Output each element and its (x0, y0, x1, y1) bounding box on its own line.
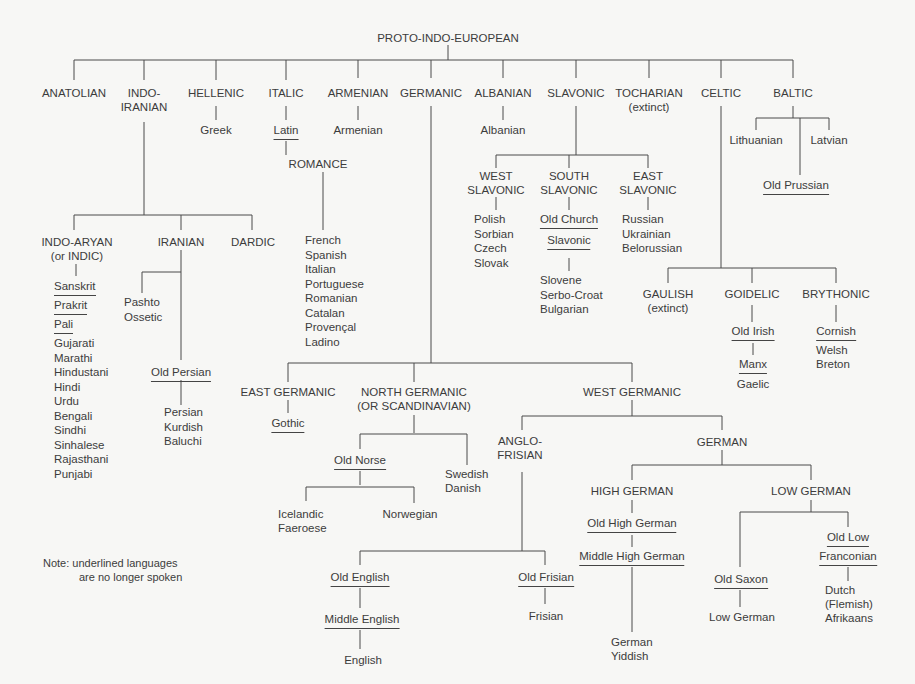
lang-old-church-extinct: Old Church (540, 212, 598, 229)
lang-item: (Flemish) (825, 597, 873, 611)
branch-hellenic: HELLENIC (188, 86, 244, 100)
lang-item: Polish (474, 212, 514, 227)
high-german-languages: German Yiddish (611, 635, 653, 663)
lang-item: Sindhi (54, 423, 108, 438)
iranian-languages-a: Pashto Ossetic (124, 295, 162, 324)
lang-latvian: Latvian (810, 133, 847, 147)
lang-old-norse-extinct: Old Norse (334, 453, 386, 470)
lang-item: Icelandic (278, 507, 327, 521)
lang-icelandic-faeroese: Icelandic Faeroese (278, 507, 327, 535)
group-gaulish: GAULISH (extinct) (643, 287, 694, 315)
lang-item: Ladino (305, 335, 364, 350)
lang-middle-high-german-extinct: Middle High German (579, 549, 684, 566)
label-line: INDO-ARYAN (41, 235, 112, 249)
lang-middle-english-extinct: Middle English (325, 612, 400, 629)
label-line: NORTH GERMANIC (357, 385, 471, 399)
group-brythonic: BRYTHONIC (802, 287, 870, 301)
group-south-slavonic: SOUTH SLAVONIC (540, 169, 597, 197)
language-family-tree: PROTO-INDO-EUROPEAN ANATOLIAN INDO- IRAN… (0, 0, 915, 684)
extinct-note: (extinct) (643, 301, 694, 315)
label-line: EAST (619, 169, 676, 183)
group-anglo-frisian: ANGLO- FRISIAN (497, 434, 542, 462)
lang-item: Afrikaans (825, 611, 873, 625)
label-line: SLAVONIC (619, 183, 676, 197)
lang-item: Rajasthani (54, 452, 108, 467)
lang-item: Provençal (305, 320, 364, 335)
lang-greek: Greek (200, 123, 231, 137)
lang-item: Kurdish (164, 420, 203, 435)
branch-celtic: CELTIC (701, 86, 741, 100)
note-line: Note: underlined languages (43, 556, 182, 570)
lang-item: Baluchi (164, 434, 203, 449)
group-goidelic: GOIDELIC (725, 287, 780, 301)
lang-gaelic: Gaelic (737, 377, 770, 391)
group-german: GERMAN (697, 435, 747, 449)
lang-item: Portuguese (305, 277, 364, 292)
label-line: IRANIAN (121, 100, 168, 114)
east-slavonic-languages: Russian Ukrainian Belorussian (622, 212, 682, 256)
lang-item: Dutch (825, 583, 873, 597)
lang-item: Ukrainian (622, 227, 682, 242)
group-north-germanic: NORTH GERMANIC (OR SCANDINAVIAN) (357, 385, 471, 413)
lang-manx-extinct: Manx (739, 357, 767, 374)
note-line: are no longer spoken (43, 570, 182, 584)
group-high-german: HIGH GERMAN (591, 484, 673, 498)
lang-item: Slovene (540, 273, 603, 288)
romance-languages-list: French Spanish Italian Portuguese Romani… (305, 233, 364, 349)
branch-baltic: BALTIC (773, 86, 812, 100)
group-east-slavonic: EAST SLAVONIC (619, 169, 676, 197)
branch-armenian: ARMENIAN (328, 86, 389, 100)
lang-old-low-extinct: Old Low (827, 530, 869, 547)
group-west-slavonic: WEST SLAVONIC (467, 169, 524, 197)
lang-item: Bengali (54, 409, 108, 424)
lang-old-prussian-extinct: Old Prussian (763, 178, 829, 195)
branch-italic: ITALIC (269, 86, 304, 100)
label-line: GAULISH (643, 287, 694, 301)
lang-item: Slovak (474, 256, 514, 271)
label-line: WEST (467, 169, 524, 183)
lang-item: Catalan (305, 306, 364, 321)
lang-swedish-danish: Swedish Danish (445, 467, 488, 495)
lang-item: Persian (164, 405, 203, 420)
lang-item: Bulgarian (540, 302, 603, 317)
branch-tocharian: TOCHARIAN (extinct) (615, 86, 683, 114)
group-romance: ROMANCE (289, 157, 348, 171)
label-line: SLAVONIC (540, 183, 597, 197)
lang-english: English (344, 653, 382, 667)
label-line: ANGLO- (497, 434, 542, 448)
lang-item: Swedish (445, 467, 488, 481)
group-dardic: DARDIC (231, 235, 275, 249)
lang-old-saxon-extinct: Old Saxon (714, 572, 768, 589)
lang-item: Yiddish (611, 649, 653, 663)
label-line: TOCHARIAN (615, 86, 683, 100)
brythonic-languages: Welsh Breton (816, 343, 850, 371)
branch-indo-iranian: INDO- IRANIAN (121, 86, 168, 114)
lang-item: Gujarati (54, 336, 108, 351)
lang-latin-extinct: Latin (274, 123, 299, 140)
lang-norwegian: Norwegian (383, 507, 438, 521)
lang-old-frisian-extinct: Old Frisian (518, 570, 574, 587)
lang-item: Pashto (124, 295, 162, 310)
lang-item: Danish (445, 481, 488, 495)
group-west-germanic: WEST GERMANIC (583, 385, 681, 399)
root-proto-indo-european: PROTO-INDO-EUROPEAN (377, 31, 519, 45)
lang-item: Sinhalese (54, 438, 108, 453)
extinct-note: (extinct) (615, 100, 683, 114)
lang-gothic-extinct: Gothic (271, 416, 304, 433)
lang-item: Romanian (305, 291, 364, 306)
lang-item: Sorbian (474, 227, 514, 242)
lang-low-german: Low German (709, 610, 775, 624)
group-indo-aryan: INDO-ARYAN (or INDIC) (41, 235, 112, 263)
indo-aryan-languages-list: Gujarati Marathi Hindustani Hindi Urdu B… (54, 336, 108, 481)
label-line: (or INDIC) (41, 249, 112, 263)
lang-item: Hindi (54, 380, 108, 395)
franconian-languages: Dutch (Flemish) Afrikaans (825, 583, 873, 625)
lang-welsh: Welsh (816, 343, 850, 357)
lang-item: Russian (622, 212, 682, 227)
branch-slavonic: SLAVONIC (547, 86, 604, 100)
branch-albanian: ALBANIAN (475, 86, 532, 100)
lang-item: Czech (474, 241, 514, 256)
lang-slavonic-extinct: Slavonic (547, 233, 590, 250)
lang-item: Serbo-Croat (540, 288, 603, 303)
lang-item: German (611, 635, 653, 649)
